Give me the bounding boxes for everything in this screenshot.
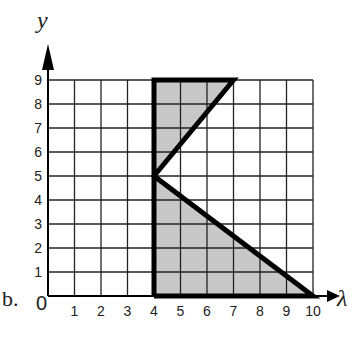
y-tick-label: 4: [34, 192, 42, 208]
y-tick-label: 2: [34, 240, 42, 256]
x-tick-label: 4: [150, 303, 158, 319]
y-axis-label: y: [35, 7, 48, 33]
y-tick-label: 1: [34, 264, 42, 280]
y-tick-label: 5: [34, 168, 42, 184]
x-tick-label: 6: [203, 303, 211, 319]
x-tick-label: 8: [256, 303, 264, 319]
y-axis-arrow-icon: [42, 44, 54, 70]
graph-diagram: 12345678910123456789 b. y λ 0: [0, 0, 362, 340]
y-tick-label: 7: [34, 120, 42, 136]
y-tick-label: 6: [34, 144, 42, 160]
x-axis-label: λ: [336, 285, 347, 311]
y-tick-label: 3: [34, 216, 42, 232]
x-tick-label: 7: [230, 303, 238, 319]
x-tick-label: 5: [177, 303, 185, 319]
x-tick-label: 2: [97, 303, 105, 319]
x-tick-label: 9: [283, 303, 291, 319]
y-tick-label: 9: [34, 72, 42, 88]
x-tick-label: 3: [124, 303, 132, 319]
x-tick-label: 10: [305, 303, 321, 319]
origin-label: 0: [36, 292, 47, 314]
y-tick-label: 8: [34, 96, 42, 112]
part-label: b.: [2, 286, 19, 311]
x-tick-label: 1: [71, 303, 79, 319]
